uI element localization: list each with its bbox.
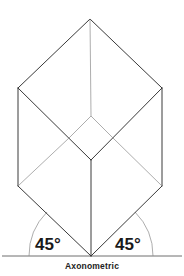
hidden-left-edge <box>18 138 69 186</box>
hidden-right-edge <box>113 138 162 186</box>
cube-drawing <box>0 0 184 276</box>
edge-right-diagonal <box>91 88 162 160</box>
edge-left-diagonal <box>18 88 91 160</box>
right-angle-label: 45° <box>115 236 141 253</box>
hidden-vertical-top <box>90 19 91 116</box>
hidden-back-edges <box>69 116 113 138</box>
left-angle-label: 45° <box>35 236 61 253</box>
diagram-caption: Axonometric <box>0 261 184 271</box>
axonometric-cube-diagram: 45° 45° Axonometric <box>0 0 184 276</box>
